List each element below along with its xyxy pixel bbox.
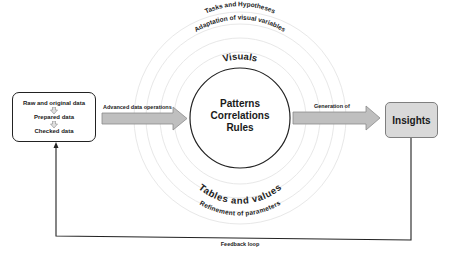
step-raw-data: Raw and original data xyxy=(23,100,85,107)
center-concepts: Patterns Correlations Rules xyxy=(190,98,290,134)
ring-label-tables: Tables and values xyxy=(197,181,284,205)
label-generation-of: Generation of xyxy=(314,103,350,109)
down-arrow-icon xyxy=(50,121,58,128)
source-data-box: Raw and original data Prepared data Chec… xyxy=(12,92,96,142)
feedback-loop-label: Feedback loop xyxy=(205,241,275,247)
arrow-generation xyxy=(293,106,380,130)
label-advanced-operations: Advanced data operations xyxy=(103,104,172,110)
step-prepared-data: Prepared data xyxy=(34,114,74,121)
feedback-arrowhead xyxy=(54,142,59,148)
ring-label-visuals: Visuals xyxy=(222,51,259,64)
down-arrow-icon xyxy=(50,107,58,114)
insight-process-diagram: Tasks and Hypotheses Adaptation of visua… xyxy=(0,0,451,257)
step-checked-data: Checked data xyxy=(34,128,73,135)
arrow-advanced-operations xyxy=(102,107,187,130)
concept-rules: Rules xyxy=(190,122,290,134)
concept-correlations: Correlations xyxy=(190,110,290,122)
concept-patterns: Patterns xyxy=(190,98,290,110)
insights-box: Insights xyxy=(385,102,438,138)
